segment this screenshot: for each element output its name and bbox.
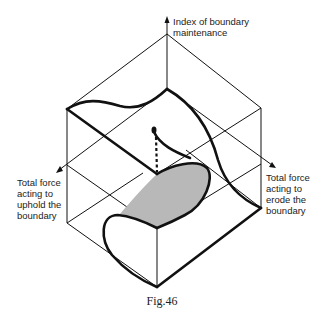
arrow-up-icon (165, 16, 170, 23)
right-axis-label: Total force acting to erode the boundary (266, 172, 310, 216)
vertical-axis (165, 16, 170, 89)
cusp-catastrophe-diagram (0, 0, 324, 312)
arrow-right-icon (269, 162, 276, 168)
arrow-left-icon (56, 166, 63, 173)
cusp-point (152, 127, 158, 173)
vertical-axis-label: Index of boundary maintenance (173, 16, 249, 38)
cube-wireframe (59, 34, 272, 287)
figure-caption: Fig.46 (0, 294, 324, 309)
left-axis-label: Total force acting to uphold the boundar… (17, 177, 61, 221)
